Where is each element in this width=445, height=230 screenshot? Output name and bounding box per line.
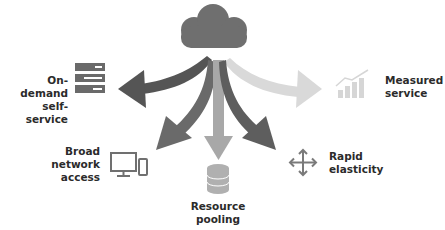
- label-line: Broad: [40, 145, 100, 158]
- label-rapid-elasticity: Rapid elasticity: [329, 150, 389, 176]
- arrow-to-measured: [224, 58, 322, 108]
- label-line: pooling: [183, 213, 253, 226]
- label-resource-pooling: Resource pooling: [183, 200, 253, 226]
- label-line: Measured: [385, 74, 445, 87]
- label-broad-network-access: Broad network access: [40, 145, 100, 184]
- server-rack-icon: [75, 63, 105, 93]
- label-line: service: [385, 87, 445, 100]
- label-measured-service: Measured service: [385, 74, 445, 100]
- label-on-demand-self-service: On-demand self-service: [2, 74, 68, 126]
- move-arrows-icon: [290, 150, 316, 175]
- label-line: network: [40, 158, 100, 171]
- label-line: On-demand: [2, 74, 68, 100]
- label-line: access: [40, 171, 100, 184]
- bar-chart-trend-icon: [336, 70, 368, 98]
- database-icon: [207, 164, 229, 194]
- label-line: elasticity: [329, 163, 389, 176]
- label-line: Rapid: [329, 150, 389, 163]
- label-line: self-service: [2, 100, 68, 126]
- label-line: Resource: [183, 200, 253, 213]
- cloud-icon: [181, 4, 247, 48]
- monitor-phone-icon: [111, 153, 147, 176]
